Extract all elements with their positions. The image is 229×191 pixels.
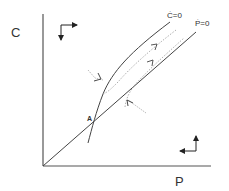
- equilibrium-label: A: [87, 115, 92, 122]
- phase-diagram: C P Ċ=0 Ṗ=0 A: [0, 0, 229, 191]
- y-axis-label: C: [11, 25, 20, 40]
- x-axis-label: P: [175, 174, 184, 189]
- trajectory-lower: [125, 38, 184, 107]
- direction-indicator-lower-right: [180, 136, 196, 151]
- approach-arrow-right-head-icon: [127, 100, 133, 106]
- trajectory-arrow-icon: [147, 60, 153, 66]
- c-dot-nullcline: [88, 22, 170, 143]
- p-dot-nullcline: [43, 32, 196, 166]
- p-dot-nullcline-label: Ṗ=0: [195, 19, 210, 28]
- direction-indicator-upper-left: [61, 25, 77, 40]
- c-dot-nullcline-label: Ċ=0: [167, 11, 182, 20]
- approach-arrow-left-head-icon: [94, 73, 101, 81]
- trajectory-upper: [103, 30, 176, 94]
